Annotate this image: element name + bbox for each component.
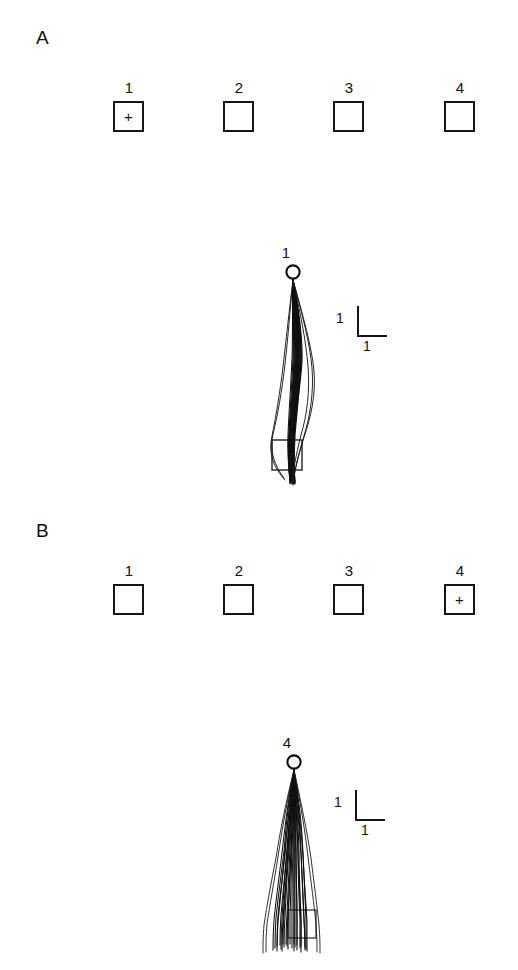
panel-b-trajectory-svg bbox=[240, 748, 440, 963]
panel-b-target-4-cue-icon: + bbox=[444, 584, 475, 615]
panel-b-target-2-cue-icon bbox=[223, 584, 254, 615]
panel-a-trajectory-plot bbox=[240, 258, 440, 503]
panel-b-scale-bar-horizontal bbox=[355, 819, 385, 821]
panel-a-letter: A bbox=[36, 28, 49, 47]
panel-a-trajectory-svg bbox=[240, 258, 440, 503]
panel-b-target-1-label: 1 bbox=[112, 563, 146, 579]
panel-b-scale-bar-horizontal-label: 1 bbox=[361, 823, 369, 837]
panel-a-target-4-label: 4 bbox=[443, 80, 477, 96]
panel-a-target-4[interactable]: 4 bbox=[443, 80, 477, 132]
panel-b-target-1[interactable]: 1 bbox=[112, 563, 146, 615]
panel-a-scale-bar-horizontal-label: 1 bbox=[363, 339, 371, 353]
panel-b-target-3-label: 3 bbox=[332, 563, 366, 579]
panel-a-target-row: 1 + 2 3 4 bbox=[0, 80, 518, 142]
panel-a-target-3-cue-icon bbox=[333, 101, 364, 132]
panel-b-target-4[interactable]: 4 + bbox=[443, 563, 477, 615]
panel-a-target-3[interactable]: 3 bbox=[332, 80, 366, 132]
panel-a-target-1[interactable]: 1 + bbox=[112, 80, 146, 132]
panel-a-target-2[interactable]: 2 bbox=[222, 80, 256, 132]
panel-b-target-3-cue-icon bbox=[333, 584, 364, 615]
panel-a-start-marker-icon bbox=[286, 265, 299, 278]
panel-b-target-3[interactable]: 3 bbox=[332, 563, 366, 615]
figure-canvas: A 1 + 2 3 4 1 bbox=[0, 0, 518, 970]
panel-b-target-row: 1 2 3 4 + bbox=[0, 563, 518, 625]
panel-a-scale-bar-vertical bbox=[357, 306, 359, 337]
panel-a-target-2-cue-icon bbox=[223, 101, 254, 132]
panel-a-target-3-label: 3 bbox=[332, 80, 366, 96]
panel-b-target-2-label: 2 bbox=[222, 563, 256, 579]
panel-a-target-2-label: 2 bbox=[222, 80, 256, 96]
panel-b-letter: B bbox=[36, 521, 49, 540]
panel-a-scale-bar-horizontal bbox=[357, 335, 387, 337]
panel-b-target-1-cue-icon bbox=[113, 584, 144, 615]
panel-a-target-4-cue-icon bbox=[444, 101, 475, 132]
panel-a-target-1-label: 1 bbox=[112, 80, 146, 96]
panel-b-target-2[interactable]: 2 bbox=[222, 563, 256, 615]
panel-a-scale-bar-vertical-label: 1 bbox=[336, 311, 344, 325]
panel-b-trajectory-plot bbox=[240, 748, 440, 963]
panel-b-scale-bar-vertical bbox=[355, 790, 357, 821]
panel-b-start-marker-icon bbox=[287, 755, 300, 768]
panel-a-target-1-cue-icon: + bbox=[113, 101, 144, 132]
panel-b-trace-bundle bbox=[273, 770, 307, 952]
panel-b-target-4-label: 4 bbox=[443, 563, 477, 579]
panel-b-scale-bar-vertical-label: 1 bbox=[334, 795, 342, 809]
